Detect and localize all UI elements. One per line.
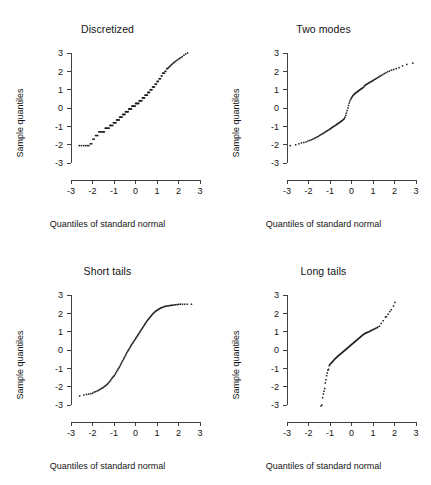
- data-point: [314, 138, 316, 140]
- data-point: [97, 135, 99, 137]
- data-point: [154, 86, 156, 88]
- data-point: [191, 303, 193, 305]
- data-point: [327, 372, 329, 374]
- data-points: [79, 303, 192, 396]
- y-tick-label: -3: [55, 158, 63, 168]
- data-point: [317, 136, 319, 138]
- data-point: [83, 394, 85, 396]
- data-point: [114, 375, 116, 377]
- data-point: [187, 52, 189, 54]
- data-point: [348, 105, 350, 107]
- x-axis-label: Quantiles of standard normal: [216, 461, 431, 471]
- x-tick-label: 2: [392, 428, 397, 438]
- data-point: [394, 302, 396, 304]
- data-point: [141, 100, 143, 102]
- data-point: [144, 97, 146, 99]
- x-tick-label: 1: [154, 428, 159, 438]
- data-point: [90, 143, 92, 145]
- y-tick-label: 2: [274, 67, 279, 77]
- data-point: [290, 145, 292, 147]
- x-tick-label: 3: [413, 186, 418, 196]
- y-tick-label: 0: [58, 103, 63, 113]
- x-tick-label: 1: [370, 186, 375, 196]
- data-point: [346, 112, 348, 114]
- y-tick-label: -2: [271, 140, 279, 150]
- data-point: [385, 72, 387, 74]
- data-point: [108, 127, 110, 129]
- data-point: [344, 116, 346, 118]
- data-point: [315, 137, 317, 139]
- data-point: [119, 366, 121, 368]
- data-point: [305, 141, 307, 143]
- data-point: [382, 320, 384, 322]
- y-tick-label: 1: [274, 85, 279, 95]
- data-point: [179, 58, 181, 60]
- data-point: [323, 391, 325, 393]
- x-axis-label: Quantiles of standard normal: [0, 219, 215, 229]
- qq-plot-figure: Discretized Sample quantiles -3-2-10123-…: [0, 0, 431, 485]
- data-point: [377, 326, 379, 328]
- data-point: [326, 375, 328, 377]
- data-point: [393, 69, 395, 71]
- data-point: [350, 99, 352, 101]
- data-point: [328, 369, 330, 371]
- y-tick-label: -1: [271, 364, 279, 374]
- data-point: [380, 323, 382, 325]
- data-point: [94, 138, 96, 140]
- data-point: [406, 64, 408, 66]
- data-point: [382, 74, 384, 76]
- data-points: [320, 302, 395, 407]
- data-point: [175, 61, 177, 63]
- x-axis-label: Quantiles of standard normal: [216, 219, 431, 229]
- panel-short-tails: Short tails Sample quantiles -3-2-10123-…: [0, 242, 215, 484]
- y-tick-label: 2: [274, 309, 279, 319]
- x-tick-label: -1: [326, 186, 334, 196]
- data-point: [323, 393, 325, 395]
- data-point: [156, 83, 158, 85]
- data-point: [86, 145, 88, 147]
- data-point: [83, 145, 85, 147]
- x-tick-label: -1: [110, 186, 118, 196]
- data-point: [118, 119, 120, 121]
- data-point: [112, 125, 114, 127]
- data-point: [118, 367, 120, 369]
- y-tick-label: 3: [274, 290, 279, 300]
- x-tick-label: 3: [197, 186, 202, 196]
- data-point: [378, 76, 380, 78]
- data-point: [322, 397, 324, 399]
- data-point: [185, 53, 187, 55]
- data-point: [321, 404, 323, 406]
- data-point: [176, 60, 178, 62]
- data-point: [325, 379, 327, 381]
- data-point: [311, 139, 313, 141]
- x-tick-label: 2: [176, 186, 181, 196]
- data-point: [391, 69, 393, 71]
- y-tick-label: -3: [271, 158, 279, 168]
- data-point: [168, 305, 170, 307]
- y-tick-label: 2: [58, 67, 63, 77]
- data-point: [312, 138, 314, 140]
- panel-long-tails: Long tails Sample quantiles -3-2-10123-3…: [216, 242, 431, 484]
- plot-area: -3-2-10123-3-2-10123: [0, 0, 215, 242]
- data-point: [104, 131, 106, 133]
- data-point: [295, 144, 297, 146]
- x-tick-label: 0: [349, 186, 354, 196]
- y-tick-label: 1: [58, 85, 63, 95]
- data-point: [88, 145, 90, 147]
- y-tick-label: 3: [58, 48, 63, 58]
- y-tick-label: 0: [274, 103, 279, 113]
- data-point: [160, 78, 162, 80]
- data-point: [115, 372, 117, 374]
- data-point: [324, 388, 326, 390]
- data-point: [114, 374, 116, 376]
- data-point: [180, 303, 182, 305]
- y-tick-label: 1: [58, 327, 63, 337]
- data-point: [127, 111, 128, 113]
- data-point: [177, 59, 179, 61]
- x-tick-label: 0: [349, 428, 354, 438]
- plot-area: -3-2-10123-3-2-10123: [216, 242, 431, 484]
- data-point: [386, 316, 388, 318]
- data-point: [391, 309, 393, 311]
- data-point: [126, 353, 128, 355]
- data-point: [387, 314, 389, 316]
